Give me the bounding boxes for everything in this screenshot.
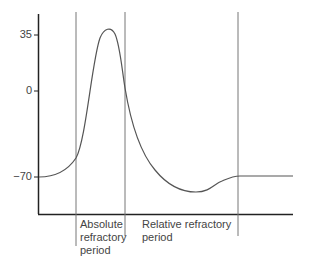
absolute-refractory-label: Absolute refractory period — [80, 218, 126, 257]
y-tick-label-minus-70: −70 — [0, 170, 32, 182]
y-tick-label-35: 35 — [0, 28, 32, 40]
membrane-potential-curve — [39, 29, 293, 192]
relative-refractory-label: Relative refractory period — [142, 218, 231, 244]
y-tick-label-0: 0 — [0, 84, 32, 96]
